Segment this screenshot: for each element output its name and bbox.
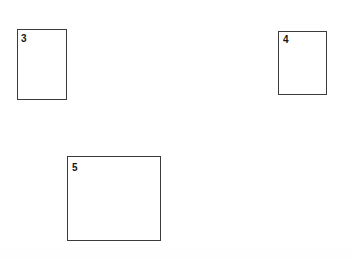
figure-canvas: 3 4 5 — [0, 0, 352, 260]
rectangle-4-label: 4 — [283, 35, 289, 45]
rectangle-5-label: 5 — [72, 163, 78, 173]
rectangle-5[interactable] — [67, 156, 161, 241]
scan-artifact-band — [0, 248, 352, 260]
rectangle-3-label: 3 — [21, 34, 27, 44]
